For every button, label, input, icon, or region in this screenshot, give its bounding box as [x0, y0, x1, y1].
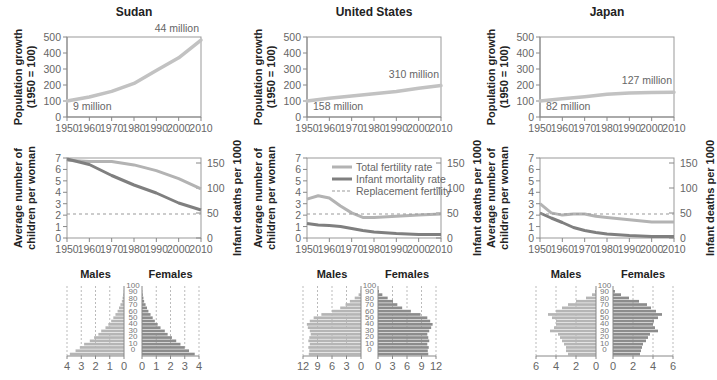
svg-text:1: 1 [153, 360, 159, 372]
female-bar [613, 336, 648, 339]
svg-text:100: 100 [680, 182, 698, 194]
svg-text:1960: 1960 [318, 122, 342, 134]
svg-text:4: 4 [528, 186, 534, 198]
svg-text:6: 6 [329, 360, 335, 372]
female-bar [613, 307, 651, 310]
female-bar [378, 326, 431, 329]
svg-text:3: 3 [343, 360, 349, 372]
female-bar [142, 303, 146, 306]
svg-text:3: 3 [55, 198, 61, 210]
female-bar [142, 343, 180, 346]
male-bar [550, 330, 596, 333]
fertility-axis-label: Average number ofchildren per woman [252, 146, 277, 250]
female-bar [142, 316, 153, 319]
males-label: Males [317, 268, 348, 280]
female-bar [613, 313, 662, 316]
svg-text:1970: 1970 [100, 243, 124, 255]
male-bar [355, 297, 361, 300]
female-bar [142, 346, 185, 349]
male-bar [310, 320, 361, 323]
svg-text:6: 6 [404, 360, 410, 372]
svg-text:50: 50 [207, 207, 219, 219]
female-bar [142, 320, 155, 323]
male-bar [98, 333, 124, 336]
female-bar [613, 340, 646, 343]
svg-text:0: 0 [610, 360, 616, 372]
female-bar [613, 320, 654, 323]
population-line [307, 86, 441, 101]
svg-text:6: 6 [55, 163, 61, 175]
svg-text:5: 5 [528, 175, 534, 187]
svg-text:5: 5 [55, 175, 61, 187]
svg-text:1950: 1950 [295, 122, 319, 134]
svg-text:2000: 2000 [407, 243, 431, 255]
infant-axis-label: Infant deaths per 1000 [231, 140, 243, 256]
svg-text:6: 6 [528, 163, 534, 175]
female-bar [142, 326, 161, 329]
male-bar [308, 340, 361, 343]
female-bar [378, 343, 427, 346]
svg-text:5: 5 [295, 175, 301, 187]
female-bar [142, 323, 158, 326]
female-bar [378, 340, 429, 343]
svg-text:500: 500 [43, 31, 61, 43]
svg-text:2010: 2010 [189, 122, 213, 134]
svg-text:12: 12 [430, 360, 442, 372]
female-bar [142, 336, 172, 339]
males-label: Males [551, 268, 582, 280]
svg-text:1990: 1990 [385, 122, 409, 134]
female-bar [142, 333, 168, 336]
svg-text:1970: 1970 [340, 122, 364, 134]
svg-text:1: 1 [528, 221, 534, 233]
population-axis-label: Population growth(1950 = 100) [12, 28, 37, 125]
svg-text:1960: 1960 [551, 122, 575, 134]
female-bar [378, 307, 402, 310]
male-bar [310, 330, 361, 333]
end-population-label: 127 million [622, 74, 672, 86]
svg-text:2000: 2000 [407, 122, 431, 134]
female-bar [378, 303, 397, 306]
female-bar [613, 297, 629, 300]
legend-label: Infant mortality rate [356, 173, 446, 185]
male-bar [576, 300, 596, 303]
svg-text:1960: 1960 [78, 243, 102, 255]
male-bar [556, 320, 596, 323]
female-bar [378, 353, 428, 356]
fertility-axis-label: Average number ofchildren per woman [12, 146, 37, 250]
female-bar [378, 349, 428, 352]
svg-text:2: 2 [528, 209, 534, 221]
svg-text:500: 500 [283, 31, 301, 43]
svg-text:1970: 1970 [573, 122, 597, 134]
female-bar [613, 330, 658, 333]
female-bar [613, 353, 640, 356]
females-label: Females [621, 268, 665, 280]
svg-text:3: 3 [389, 360, 395, 372]
female-bar [378, 323, 433, 326]
svg-text:1990: 1990 [618, 122, 642, 134]
female-bar [613, 333, 650, 336]
male-bar [556, 323, 596, 326]
male-bar [566, 346, 596, 349]
svg-text:4: 4 [64, 360, 70, 372]
male-bar [568, 353, 596, 356]
male-bar [310, 343, 361, 346]
svg-text:2010: 2010 [662, 243, 686, 255]
male-bar [308, 346, 361, 349]
end-population-label: 310 million [389, 68, 439, 80]
female-bar [142, 330, 165, 333]
female-bar [378, 333, 427, 336]
fertility-mortality-chart: 0123456705010015019501960197019801990200… [485, 140, 716, 256]
female-bar [142, 349, 189, 352]
svg-text:1950: 1950 [55, 243, 79, 255]
male-bar [562, 307, 596, 310]
male-bar [309, 336, 361, 339]
svg-text:1990: 1990 [145, 243, 169, 255]
female-bar [613, 349, 641, 352]
svg-text:300: 300 [283, 63, 301, 75]
infant-mortality-line [67, 159, 201, 210]
svg-text:0: 0 [358, 360, 364, 372]
male-bar [332, 310, 361, 313]
female-bar [613, 323, 653, 326]
svg-text:2000: 2000 [167, 243, 191, 255]
male-bar [119, 307, 124, 310]
